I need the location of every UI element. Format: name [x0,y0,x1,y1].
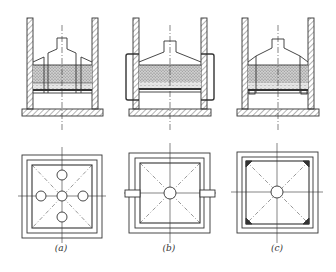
corner-block-tl [246,161,252,167]
gravel-layer-a [33,83,92,90]
right-wall-c [308,18,314,109]
plan-view-a [18,147,106,243]
panel-label-c: (c) [271,243,283,253]
panel-label-a: (a) [55,243,67,253]
left-wall-c [242,18,248,109]
side-pipe-left-plan [125,190,140,197]
plan-view-b [124,143,216,243]
center-opening-a [57,191,67,201]
sand-layer-a [33,65,92,83]
center-opening-c [271,186,283,198]
plan-view-c [231,143,323,243]
diagram-canvas [0,0,336,272]
left-wall-a [27,18,33,109]
center-opening-b [164,187,176,199]
base-slab-a [22,109,103,116]
corner-block-tr [303,161,309,167]
side-pipe-right-plan [200,190,215,197]
section-view-b [126,18,214,130]
panel-label-b: (b) [163,243,176,253]
right-wall-a [92,18,98,109]
section-view-a [22,18,103,130]
left-wall-b [133,18,139,109]
section-view-c [237,18,319,130]
right-wall-b [201,18,207,109]
